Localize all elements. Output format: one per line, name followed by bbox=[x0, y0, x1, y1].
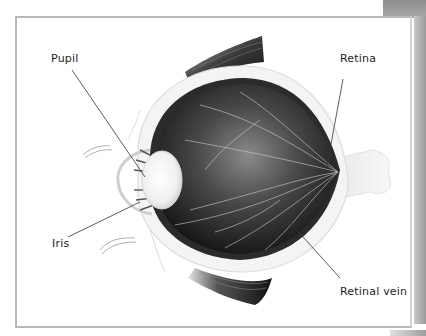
iris-leader-line bbox=[68, 202, 140, 237]
lower-eye-muscle bbox=[188, 268, 272, 305]
label-retina: Retina bbox=[340, 52, 376, 65]
lens bbox=[142, 151, 182, 209]
label-retinal-vein: Retinal vein bbox=[340, 285, 407, 298]
label-pupil: Pupil bbox=[51, 52, 79, 65]
label-iris: Iris bbox=[52, 237, 69, 250]
pupil-leader-line bbox=[72, 70, 145, 177]
